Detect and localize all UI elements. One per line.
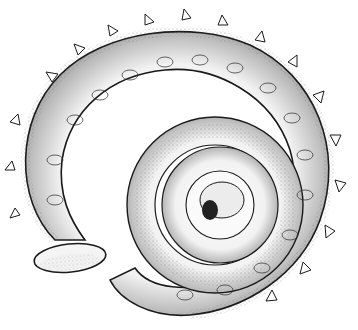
inner-coil	[162, 147, 278, 263]
illustration-canvas	[0, 0, 358, 330]
ammonite-fossil-drawing	[0, 0, 358, 330]
